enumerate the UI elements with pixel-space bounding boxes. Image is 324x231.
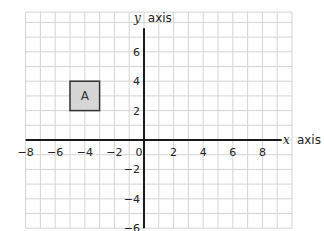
y-tick-label: 6 <box>133 46 140 59</box>
y-axis-variable: y <box>133 11 141 25</box>
y-tick-label: 4 <box>133 75 140 88</box>
x-tick-label: 8 <box>259 146 266 159</box>
y-tick-label: −2 <box>124 163 140 176</box>
x-axis-variable: x <box>283 133 290 147</box>
x-axis-word: axis <box>297 133 321 147</box>
x-tick-label: −6 <box>47 146 63 159</box>
x-tick-label: 0 <box>136 146 143 159</box>
coordinate-plane: A −8−6−4−202468642−2−4−6 y axis x axis <box>0 0 324 231</box>
y-tick-label: 2 <box>133 105 140 118</box>
x-tick-label: −8 <box>17 146 33 159</box>
x-tick-label: 2 <box>170 146 177 159</box>
y-tick-label: −4 <box>124 193 140 206</box>
x-tick-label: 6 <box>229 146 236 159</box>
x-axis-title: x axis <box>283 130 321 147</box>
shape-a-label: A <box>81 89 90 103</box>
y-tick-label: −6 <box>124 222 140 231</box>
y-axis-title: y axis <box>133 8 172 25</box>
shapes: A <box>70 81 100 110</box>
y-axis-word: axis <box>148 11 172 25</box>
grid <box>26 12 292 228</box>
x-tick-label: −2 <box>106 146 122 159</box>
axis-titles: y axis x axis <box>133 8 321 147</box>
x-tick-label: −4 <box>77 146 93 159</box>
x-tick-label: 4 <box>200 146 207 159</box>
axes <box>26 28 282 228</box>
